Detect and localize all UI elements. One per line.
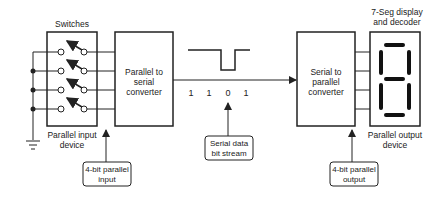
bit-1: 1 bbox=[188, 88, 193, 98]
p2s-label-3: converter bbox=[126, 87, 162, 97]
junction-dot bbox=[31, 69, 36, 74]
output-device-label-1: Parallel output bbox=[368, 130, 423, 140]
input-device-label-1: Parallel input bbox=[47, 130, 97, 140]
bit-4: 1 bbox=[243, 88, 248, 98]
display-label-2: and decoder bbox=[373, 17, 420, 27]
ground-bus bbox=[31, 52, 62, 140]
switch-4 bbox=[58, 98, 115, 112]
switches-label: Switches bbox=[55, 19, 89, 29]
junction-dot bbox=[31, 88, 36, 93]
p2s-label-1: Parallel to bbox=[125, 67, 163, 77]
parallel-output-lines bbox=[355, 52, 370, 109]
s2p-label-3: converter bbox=[308, 87, 344, 97]
p2s-label-2: serial bbox=[134, 77, 154, 87]
serial-waveform bbox=[188, 50, 250, 70]
parallel-output-callout-2: output bbox=[343, 175, 366, 184]
switch-3 bbox=[58, 79, 115, 93]
display-label-1: 7-Seg display bbox=[371, 7, 423, 17]
parallel-output-callout-1: 4-bit parallel bbox=[332, 165, 376, 174]
serial-stream-callout-1: Serial data bbox=[210, 139, 249, 148]
serial-communication-diagram: Switches bbox=[0, 0, 444, 197]
output-device-label-2: device bbox=[383, 140, 408, 150]
serial-stream-callout-2: bit stream bbox=[211, 149, 246, 158]
ground-icon bbox=[26, 141, 40, 149]
s2p-label-1: Serial to bbox=[310, 67, 341, 77]
switch-1 bbox=[58, 41, 115, 55]
switch-box bbox=[47, 32, 97, 126]
parallel-input-callout-1: 4-bit parallel bbox=[85, 165, 129, 174]
seven-segment-digit-8 bbox=[381, 45, 409, 115]
switch-2 bbox=[58, 60, 115, 74]
input-device-label-2: device bbox=[60, 140, 85, 150]
s2p-label-2: parallel bbox=[312, 77, 340, 87]
bit-3: 0 bbox=[225, 88, 230, 98]
bit-2: 1 bbox=[206, 88, 211, 98]
parallel-input-callout-2: input bbox=[98, 175, 116, 184]
junction-dot bbox=[31, 107, 36, 112]
